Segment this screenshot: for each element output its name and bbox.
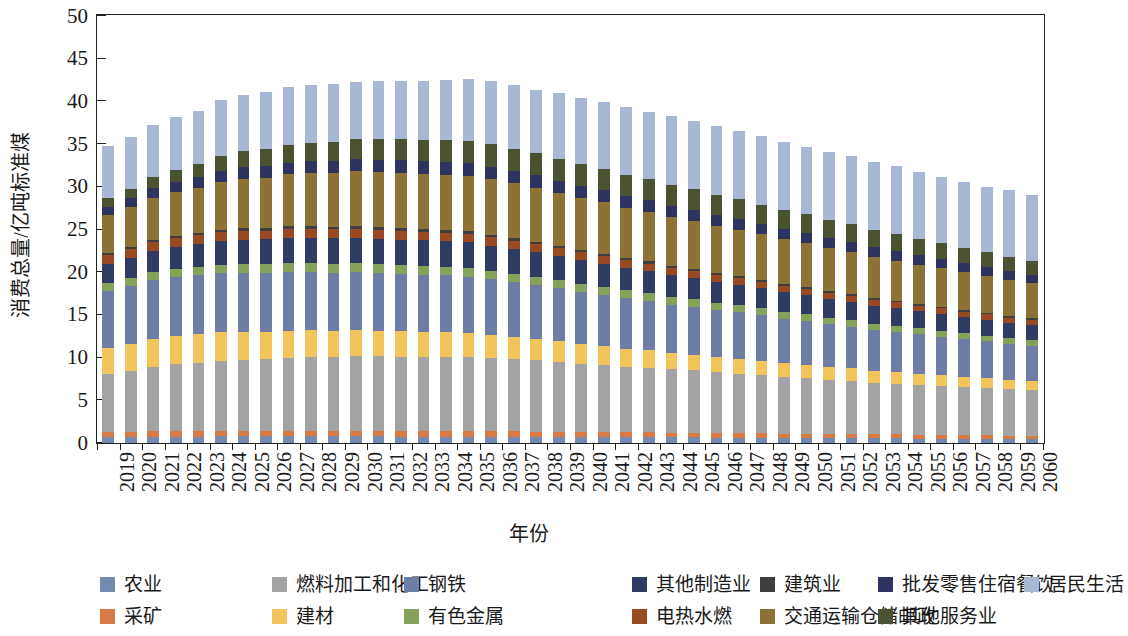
bar-segment xyxy=(598,264,610,287)
x-axis-tick xyxy=(142,443,143,450)
bar-segment xyxy=(193,437,205,443)
bar-segment xyxy=(688,307,700,355)
legend-item[interactable]: 其他服务业 xyxy=(878,607,1024,626)
legend-item[interactable]: 其他制造业 xyxy=(632,575,760,594)
bar[interactable] xyxy=(328,84,340,443)
bar[interactable] xyxy=(170,117,182,443)
bar-segment xyxy=(778,292,790,312)
legend-item[interactable]: 电热水燃 xyxy=(632,607,760,626)
bar-segment xyxy=(193,244,205,267)
bar[interactable] xyxy=(620,107,632,443)
bar[interactable] xyxy=(125,137,137,443)
bar-segment xyxy=(620,437,632,443)
bar[interactable] xyxy=(395,80,407,443)
bar[interactable] xyxy=(666,116,678,443)
bar-segment xyxy=(260,436,272,443)
bar[interactable] xyxy=(193,110,205,443)
bar[interactable] xyxy=(440,80,452,443)
bar[interactable] xyxy=(553,93,565,443)
bar-segment xyxy=(1026,275,1038,284)
bar[interactable] xyxy=(846,156,858,443)
x-axis-tick xyxy=(840,443,841,450)
bar[interactable] xyxy=(823,152,835,443)
bar[interactable] xyxy=(575,98,587,443)
legend-item[interactable]: 有色金属 xyxy=(404,607,632,626)
bar-segment xyxy=(260,149,272,166)
bar[interactable] xyxy=(801,147,813,443)
bar-segment xyxy=(868,257,880,298)
bar[interactable] xyxy=(102,146,114,443)
bar-segment xyxy=(823,248,835,291)
bar-segment xyxy=(711,282,723,303)
bar-segment xyxy=(711,226,723,273)
legend-swatch xyxy=(632,609,647,624)
y-axis-tick-label: 45 xyxy=(44,48,88,69)
bar-segment xyxy=(733,278,745,285)
legend-swatch xyxy=(404,577,419,592)
bar-segment xyxy=(260,359,272,431)
bar[interactable] xyxy=(215,100,227,443)
bar[interactable] xyxy=(147,125,159,443)
bar[interactable] xyxy=(958,182,970,443)
legend-item[interactable]: 采矿 xyxy=(100,607,272,626)
bar[interactable] xyxy=(418,81,430,443)
bar[interactable] xyxy=(283,87,295,443)
legend-item[interactable]: 居民生活 xyxy=(1024,575,1128,594)
bar[interactable] xyxy=(913,172,925,443)
bar-segment xyxy=(485,358,497,431)
bar-segment xyxy=(711,357,723,372)
bar[interactable] xyxy=(688,121,700,443)
legend-item[interactable]: 农业 xyxy=(100,575,272,594)
bar[interactable] xyxy=(711,126,723,443)
bar-segment xyxy=(328,357,340,430)
bar-segment xyxy=(936,375,948,386)
bar-segment xyxy=(756,361,768,376)
bar[interactable] xyxy=(260,91,272,443)
bar-segment xyxy=(125,207,137,246)
x-axis-tick-label: 2032 xyxy=(410,452,430,492)
x-axis-tick xyxy=(615,443,616,450)
legend-item[interactable]: 批发零售住宿餐饮 xyxy=(878,575,1024,594)
bar[interactable] xyxy=(756,136,768,443)
bar[interactable] xyxy=(981,187,993,443)
bar-segment xyxy=(125,344,137,371)
plot-area xyxy=(96,14,1045,444)
bar[interactable] xyxy=(1003,190,1015,443)
legend-item[interactable]: 交通运输仓储邮政 xyxy=(760,607,878,626)
bar[interactable] xyxy=(508,85,520,443)
bar[interactable] xyxy=(350,82,362,443)
legend-item[interactable]: 建材 xyxy=(272,607,404,626)
bar[interactable] xyxy=(1026,195,1038,443)
legend-item[interactable]: 建筑业 xyxy=(760,575,878,594)
bar[interactable] xyxy=(733,131,745,443)
bar-segment xyxy=(305,272,317,330)
bar[interactable] xyxy=(778,142,790,443)
bar[interactable] xyxy=(238,95,250,443)
bar-segment xyxy=(846,368,858,381)
bar[interactable] xyxy=(305,85,317,443)
bar[interactable] xyxy=(868,162,880,443)
bar-segment xyxy=(485,144,497,166)
bar[interactable] xyxy=(485,80,497,443)
bar-segment xyxy=(823,380,835,434)
bar[interactable] xyxy=(463,79,475,443)
x-axis-tick xyxy=(277,443,278,450)
x-axis-tick-label: 2031 xyxy=(387,452,407,492)
bar[interactable] xyxy=(598,102,610,443)
bar[interactable] xyxy=(643,112,655,443)
bar-segment xyxy=(350,229,362,238)
bar-segment xyxy=(485,335,497,358)
bar-segment xyxy=(508,337,520,359)
bar[interactable] xyxy=(936,177,948,443)
bar[interactable] xyxy=(373,81,385,443)
legend-item[interactable]: 燃料加工和化工 xyxy=(272,575,404,594)
bar[interactable] xyxy=(530,89,542,443)
legend-item[interactable]: 钢铁 xyxy=(404,575,632,594)
bar-segment xyxy=(193,177,205,187)
bar-segment xyxy=(733,312,745,358)
bar-segment xyxy=(215,232,227,241)
bar-segment xyxy=(868,371,880,383)
x-axis-tick-label: 2050 xyxy=(815,452,835,492)
bar-segment xyxy=(958,248,970,263)
bar[interactable] xyxy=(891,166,903,443)
